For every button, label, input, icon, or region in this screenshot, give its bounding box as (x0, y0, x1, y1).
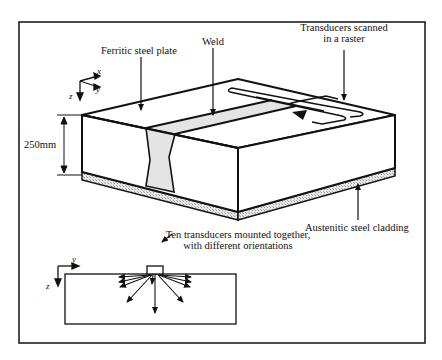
label-transducers-line1: Transducers scanned (288, 22, 400, 33)
label-weld: Weld (202, 36, 224, 47)
transducer-housing (147, 266, 163, 274)
beam-arrows (119, 274, 191, 313)
label-transducers-line2: in a raster (288, 33, 400, 44)
axis-label-x: x (97, 66, 101, 77)
label-ten-transducers: Ten transducers mounted together, with d… (158, 229, 318, 251)
label-ten-line1: Ten transducers mounted together, (158, 229, 318, 240)
label-ferritic-plate: Ferritic steel plate (101, 45, 177, 56)
section-plate (65, 274, 236, 324)
axis-label-y: y (96, 84, 100, 95)
axis2d-label-y: y (72, 254, 76, 265)
axis-label-z: z (69, 91, 73, 102)
thickness-dimension (57, 115, 82, 175)
axis2d-label-z: z (46, 281, 50, 292)
diagram-canvas (0, 0, 442, 360)
label-thickness: 250mm (24, 139, 56, 150)
label-cladding: Austenitic steel cladding (305, 222, 409, 233)
label-ten-line2: with different orientations (158, 240, 318, 251)
label-transducers-scanned: Transducers scanned in a raster (288, 22, 400, 44)
